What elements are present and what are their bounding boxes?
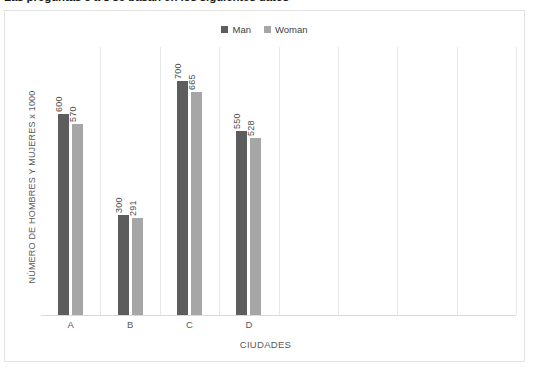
bar-rect — [236, 131, 247, 315]
bar-group: 700665 — [177, 47, 202, 315]
bar-value-text: 570 — [68, 106, 78, 122]
x-axis-title: CIUDADES — [5, 339, 526, 350]
plot-area: 600570300291700665550528 — [41, 47, 516, 315]
x-tick-c: C — [186, 319, 193, 330]
bar-value-label: 570 — [72, 88, 83, 122]
page-title: Las preguntas 5 a 8 se basan en los sigu… — [4, 0, 289, 3]
bar-group: 600570 — [58, 47, 83, 315]
bar-rect — [132, 218, 143, 315]
bar-man-a[interactable]: 600 — [58, 114, 69, 315]
bar-value-text: 600 — [54, 96, 64, 112]
chart-container: Man Woman NÚMERO DE HOMBRES Y MUJERES x … — [4, 10, 525, 362]
legend-item-woman: Woman — [264, 25, 308, 35]
y-axis-title: NÚMERO DE HOMBRES Y MUJERES x 1000 — [23, 11, 39, 363]
x-axis-tick-labels: ABCD — [41, 319, 516, 337]
legend-label-man: Man — [232, 25, 250, 35]
bar-group: 550528 — [236, 47, 261, 315]
legend-label-woman: Woman — [275, 25, 308, 35]
bar-value-label: 665 — [191, 56, 202, 90]
x-tick-d: D — [245, 319, 252, 330]
bar-value-label: 528 — [250, 102, 261, 136]
bar-rect — [177, 81, 188, 316]
bar-man-b[interactable]: 300 — [118, 215, 129, 316]
bar-woman-c[interactable]: 665 — [191, 92, 202, 315]
x-tick-a: A — [68, 319, 74, 330]
bar-rect — [72, 124, 83, 315]
bar-value-text: 291 — [127, 200, 137, 216]
bar-value-text: 665 — [186, 75, 196, 91]
legend-item-man: Man — [221, 25, 250, 35]
bar-value-text: 550 — [232, 113, 242, 129]
bar-value-text: 300 — [113, 197, 123, 213]
y-axis-title-text: NÚMERO DE HOMBRES Y MUJERES x 1000 — [26, 90, 36, 283]
bar-value-label: 291 — [132, 182, 143, 216]
bar-woman-a[interactable]: 570 — [72, 124, 83, 315]
bar-man-c[interactable]: 700 — [177, 81, 188, 316]
bar-value-text: 700 — [172, 63, 182, 79]
bar-man-d[interactable]: 550 — [236, 131, 247, 315]
legend-swatch-woman — [264, 26, 271, 33]
bar-woman-d[interactable]: 528 — [250, 138, 261, 315]
gridline — [516, 47, 517, 315]
bar-rect — [191, 92, 202, 315]
chart-legend: Man Woman — [5, 25, 524, 35]
bar-woman-b[interactable]: 291 — [132, 218, 143, 315]
bar-rect — [118, 215, 129, 316]
bar-rect — [58, 114, 69, 315]
bars-layer: 600570300291700665550528 — [41, 47, 516, 315]
x-axis-line — [41, 315, 516, 316]
bar-group: 300291 — [118, 47, 143, 315]
bar-rect — [250, 138, 261, 315]
legend-swatch-man — [221, 26, 228, 33]
bar-value-text: 528 — [246, 121, 256, 137]
x-tick-b: B — [127, 319, 133, 330]
